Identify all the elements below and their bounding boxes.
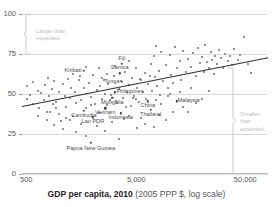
y-axis-tick-mark bbox=[19, 134, 22, 135]
data-point bbox=[85, 107, 87, 109]
data-point bbox=[60, 120, 62, 122]
data-point bbox=[99, 85, 101, 87]
data-point bbox=[149, 75, 151, 77]
smaller-than-expected-label: Smaller than expected bbox=[240, 111, 264, 133]
y-axis-tick-label: 50 bbox=[8, 90, 16, 98]
data-point bbox=[206, 61, 208, 63]
data-point bbox=[80, 99, 82, 101]
data-point-labeled bbox=[83, 70, 85, 72]
data-point bbox=[151, 90, 153, 92]
data-point bbox=[250, 72, 252, 74]
y-gridline bbox=[22, 54, 268, 55]
data-point bbox=[197, 47, 199, 49]
data-point bbox=[104, 130, 106, 132]
data-point bbox=[237, 59, 239, 61]
data-point bbox=[58, 113, 60, 115]
data-point bbox=[190, 66, 192, 68]
data-point bbox=[110, 94, 112, 96]
x-axis-tick-label: 500 bbox=[20, 176, 33, 184]
data-point bbox=[88, 82, 90, 84]
data-point-labeled bbox=[90, 142, 92, 144]
point-label: Samoa bbox=[111, 65, 129, 71]
data-point bbox=[98, 67, 100, 69]
data-point bbox=[204, 44, 206, 46]
data-point bbox=[182, 106, 184, 108]
data-point bbox=[55, 101, 57, 103]
data-point bbox=[90, 96, 92, 98]
data-point bbox=[70, 87, 72, 89]
y-axis-tick-label: 0 bbox=[12, 170, 16, 178]
point-label: Malaysia bbox=[178, 98, 200, 104]
data-point bbox=[220, 57, 222, 59]
data-point-labeled bbox=[118, 72, 120, 74]
data-point bbox=[65, 117, 67, 119]
data-point bbox=[104, 93, 106, 95]
data-point bbox=[208, 90, 210, 92]
data-point bbox=[154, 76, 156, 78]
data-point bbox=[78, 79, 80, 81]
data-point bbox=[49, 111, 51, 113]
data-point bbox=[111, 121, 113, 123]
data-point bbox=[233, 48, 235, 50]
data-point bbox=[239, 54, 241, 56]
data-point bbox=[182, 50, 184, 52]
data-point bbox=[74, 91, 76, 93]
data-point bbox=[53, 124, 55, 126]
data-point bbox=[179, 60, 181, 62]
data-point bbox=[47, 77, 49, 79]
data-point bbox=[48, 95, 50, 97]
y-axis-tick-label: 75 bbox=[8, 50, 16, 58]
data-point bbox=[172, 111, 174, 113]
data-point bbox=[62, 83, 64, 85]
data-point bbox=[214, 55, 216, 57]
data-point bbox=[131, 77, 133, 79]
y-axis-tick-mark bbox=[19, 174, 22, 175]
y-axis-tick-mark bbox=[19, 14, 22, 15]
data-point bbox=[128, 60, 130, 62]
data-point bbox=[62, 128, 64, 130]
point-label: China bbox=[140, 103, 155, 109]
y-axis-labels: 0255075100 bbox=[0, 14, 20, 174]
data-point bbox=[69, 119, 71, 121]
data-point bbox=[96, 125, 98, 127]
point-label: Philippines bbox=[116, 90, 143, 96]
data-point bbox=[160, 51, 162, 53]
data-point bbox=[180, 79, 182, 81]
data-point bbox=[195, 75, 197, 77]
data-point bbox=[26, 85, 28, 87]
data-point bbox=[165, 64, 167, 66]
data-point bbox=[172, 82, 174, 84]
data-point bbox=[113, 75, 115, 77]
data-point bbox=[144, 123, 146, 125]
data-point bbox=[29, 94, 31, 96]
data-point bbox=[144, 72, 146, 74]
data-point bbox=[158, 70, 160, 72]
data-point bbox=[58, 91, 60, 93]
data-point bbox=[153, 55, 155, 57]
data-point bbox=[44, 84, 46, 86]
data-point bbox=[201, 56, 203, 58]
point-label: Kiribati bbox=[64, 68, 81, 74]
data-point bbox=[75, 102, 77, 104]
data-point bbox=[211, 59, 213, 61]
data-point bbox=[67, 78, 69, 80]
larger-than-expected-bracket bbox=[24, 14, 36, 54]
data-point bbox=[190, 87, 192, 89]
data-point bbox=[85, 135, 87, 137]
data-point bbox=[26, 98, 28, 100]
x-axis-tick-label: 50,000 bbox=[234, 176, 257, 184]
data-point bbox=[139, 78, 141, 80]
data-point bbox=[192, 52, 194, 54]
data-point bbox=[201, 98, 203, 100]
data-point bbox=[147, 83, 149, 85]
data-point bbox=[37, 115, 39, 117]
data-point bbox=[52, 103, 54, 105]
data-point bbox=[167, 87, 169, 89]
point-label: Mongolia bbox=[101, 100, 124, 106]
data-point bbox=[46, 111, 48, 113]
data-point bbox=[167, 95, 169, 97]
data-point bbox=[101, 77, 103, 79]
data-point bbox=[46, 119, 48, 121]
point-label: Tonga bbox=[104, 79, 119, 85]
point-label: Papua New Guinea bbox=[67, 146, 116, 152]
